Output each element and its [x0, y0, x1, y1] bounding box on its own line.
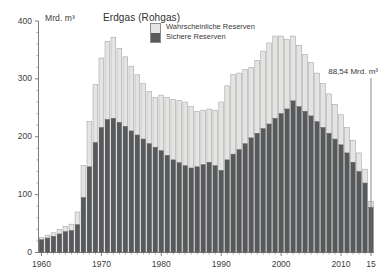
bar-1998	[267, 43, 272, 253]
bar-2008	[327, 94, 332, 253]
bar-segment-wahrscheinliche	[297, 45, 302, 106]
bar-segment-sichere	[285, 109, 290, 253]
bar-segment-wahrscheinliche	[75, 212, 80, 225]
bar-segment-sichere	[141, 139, 146, 252]
bar-segment-sichere	[39, 240, 44, 253]
bar-segment-sichere	[177, 163, 182, 253]
bar-1985	[189, 107, 194, 253]
bar-segment-wahrscheinliche	[159, 95, 164, 151]
bar-segment-sichere	[297, 107, 302, 253]
bar-1991	[225, 86, 230, 253]
bar-2013	[357, 153, 362, 253]
bar-segment-sichere	[339, 145, 344, 253]
bar-1980	[159, 95, 164, 252]
bar-segment-sichere	[207, 162, 212, 252]
bar-segment-sichere	[219, 170, 224, 252]
x-tick-label-1990: 1990	[212, 259, 231, 269]
bar-1977	[141, 84, 146, 253]
bar-segment-wahrscheinliche	[255, 60, 260, 133]
bar-segment-wahrscheinliche	[165, 97, 170, 155]
bar-segment-sichere	[213, 166, 218, 253]
bar-segment-sichere	[111, 118, 116, 252]
bar-1974	[123, 57, 128, 253]
bar-1978	[147, 92, 152, 253]
x-tick-label-2000: 2000	[272, 259, 291, 269]
bar-segment-wahrscheinliche	[51, 233, 56, 236]
bar-segment-wahrscheinliche	[213, 110, 218, 166]
bar-1973	[117, 48, 122, 252]
bar-segment-sichere	[69, 231, 74, 253]
bar-1989	[213, 110, 218, 252]
bar-1960	[39, 237, 44, 252]
bar-1986	[195, 111, 200, 252]
bar-segment-sichere	[231, 154, 236, 252]
bar-segment-sichere	[291, 101, 296, 253]
bar-segment-wahrscheinliche	[303, 55, 308, 112]
bar-1984	[183, 102, 188, 252]
bar-2005	[309, 63, 314, 253]
bar-segment-wahrscheinliche	[321, 84, 326, 128]
bar-2006	[315, 73, 320, 252]
bar-1972	[111, 37, 116, 252]
bar-segment-wahrscheinliche	[93, 85, 98, 143]
bar-segment-sichere	[243, 144, 248, 253]
bar-segment-wahrscheinliche	[201, 110, 206, 164]
bar-segment-wahrscheinliche	[207, 109, 212, 162]
bar-segment-wahrscheinliche	[129, 66, 134, 131]
bar-1996	[255, 60, 260, 252]
bar-segment-sichere	[153, 147, 158, 252]
bar-1993	[237, 73, 242, 252]
bar-1962	[51, 233, 56, 253]
bar-1990	[219, 102, 224, 252]
x-tick-label-15: 15	[366, 259, 375, 269]
bar-1997	[261, 51, 266, 252]
bar-segment-wahrscheinliche	[171, 100, 176, 160]
bar-2012	[351, 140, 356, 252]
bar-1992	[231, 74, 236, 252]
bar-segment-wahrscheinliche	[261, 51, 266, 129]
bar-1995	[249, 67, 254, 252]
bar-2009	[333, 104, 338, 252]
bars-layer	[39, 36, 373, 252]
bar-segment-sichere	[303, 111, 308, 252]
bar-1966	[75, 212, 80, 253]
bar-segment-sichere	[345, 153, 350, 253]
bar-segment-wahrscheinliche	[87, 122, 92, 167]
bar-segment-sichere	[255, 133, 260, 252]
bar-segment-sichere	[165, 155, 170, 252]
bar-segment-wahrscheinliche	[57, 229, 62, 234]
bar-1969	[93, 85, 98, 253]
bar-1965	[69, 224, 74, 252]
bar-segment-wahrscheinliche	[327, 94, 332, 133]
bar-segment-sichere	[75, 225, 80, 253]
bar-1971	[105, 41, 110, 252]
bar-segment-sichere	[237, 149, 242, 252]
bar-segment-wahrscheinliche	[345, 127, 350, 152]
bar-segment-sichere	[183, 166, 188, 253]
bar-segment-sichere	[135, 135, 140, 252]
bar-1963	[57, 229, 62, 252]
bar-segment-wahrscheinliche	[81, 166, 86, 198]
y-tick-label-200: 200	[4, 131, 32, 141]
x-tick-label-2010: 2010	[332, 259, 351, 269]
bar-segment-wahrscheinliche	[45, 235, 50, 238]
bar-segment-wahrscheinliche	[69, 224, 74, 230]
bar-segment-wahrscheinliche	[357, 153, 362, 172]
bar-1961	[45, 235, 50, 252]
bar-1981	[165, 97, 170, 252]
bar-segment-wahrscheinliche	[279, 36, 284, 114]
bar-1975	[129, 66, 134, 252]
bar-segment-sichere	[93, 143, 98, 253]
bar-segment-sichere	[51, 236, 56, 252]
bar-segment-sichere	[249, 138, 254, 253]
bar-segment-sichere	[195, 167, 200, 253]
bar-2014	[363, 169, 368, 252]
bar-segment-wahrscheinliche	[177, 100, 182, 163]
bar-segment-sichere	[129, 131, 134, 253]
bar-segment-wahrscheinliche	[183, 102, 188, 166]
bar-2011	[345, 127, 350, 252]
bar-segment-sichere	[171, 160, 176, 253]
bar-segment-wahrscheinliche	[339, 115, 344, 145]
bar-segment-wahrscheinliche	[243, 70, 248, 144]
bar-1983	[177, 100, 182, 252]
